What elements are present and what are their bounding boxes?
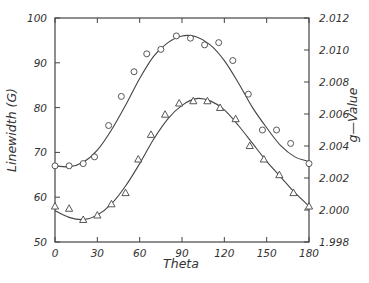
y2-tick-label: 2.012 [319,12,349,24]
y2-tick-label: 2.008 [319,76,349,88]
left-y-axis-title: Linewidth (G) [4,88,19,172]
circle-marker [66,163,72,169]
x-tick-label: 60 [133,247,147,259]
y2-tick-label: 2.000 [319,204,349,216]
circle-marker [230,58,236,64]
x-tick-label: 0 [52,247,59,259]
x-tick-label: 150 [257,247,277,259]
y2-tick-label: 1.998 [319,236,349,248]
circle-marker [245,91,251,97]
circle-marker [187,35,193,41]
plot-border [55,18,309,242]
x-tick-label: 120 [214,247,234,259]
circle-marker [80,161,86,167]
x-axis-title: Theta [163,256,199,271]
right-y-axis-ticks: 1.9982.0002.0022.0042.0062.0082.0102.012 [304,12,349,248]
chart: 0306090120150180 5060708090100 1.9982.00… [0,0,369,283]
circle-marker [144,51,150,57]
y-tick-label: 100 [27,12,47,24]
circle-marker [216,40,222,46]
x-axis-ticks: 0306090120150180 [52,18,320,259]
y-tick-label: 50 [34,236,48,248]
x-tick-label: 180 [299,247,319,259]
y-tick-label: 90 [34,57,48,69]
triangle-marker [176,100,183,106]
circle-marker [131,69,137,75]
circle-marker [118,93,124,99]
right-y-axis-title: g—Value [345,87,360,142]
plot-frame [55,18,309,242]
circle-marker [288,140,294,146]
triangle-marker [66,205,73,211]
y-tick-label: 70 [34,146,48,158]
circle-marker [306,161,312,167]
circle-marker [202,42,208,48]
y2-tick-label: 2.010 [319,44,349,56]
triangle-marker [161,111,168,117]
fit-curves [55,35,309,219]
circle-marker [259,127,265,133]
circle-marker [52,163,58,169]
triangle-marker [147,131,154,137]
circle-marker [274,127,280,133]
y2-tick-label: 2.002 [319,172,349,184]
fit-curve [55,35,309,167]
triangle-marker [290,189,297,195]
circle-marker [106,123,112,129]
data-points [51,33,312,223]
triangle-marker [135,156,142,162]
triangle-marker [260,156,267,162]
circle-marker [173,33,179,39]
circle-marker [158,46,164,52]
x-tick-label: 30 [91,247,105,259]
circle-marker [92,154,98,160]
triangle-marker [94,212,101,218]
y-tick-label: 80 [34,102,48,114]
triangle-marker [51,203,58,209]
y-tick-label: 60 [34,191,48,203]
